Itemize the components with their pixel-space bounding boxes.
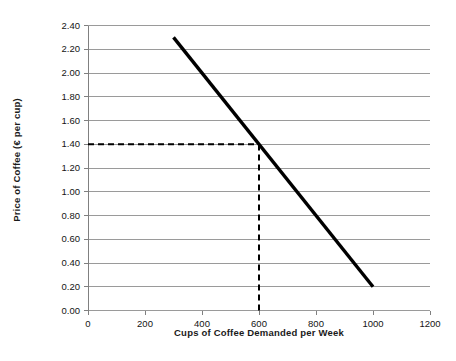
axis-tick-marks <box>84 26 430 315</box>
demand-curve-line <box>174 37 374 286</box>
data-series <box>174 37 374 286</box>
demand-curve-chart: Price of Coffee (€ per cup) Cups of Coff… <box>0 0 456 361</box>
plot-area <box>0 0 456 361</box>
guide-lines <box>88 144 259 310</box>
